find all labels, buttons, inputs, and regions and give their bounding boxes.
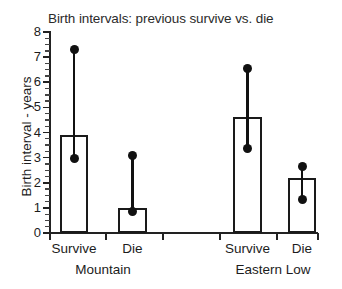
y-minor-tick — [45, 138, 50, 139]
y-minor-tick — [45, 63, 50, 64]
error-bar-line — [246, 68, 249, 148]
y-tick-5 — [43, 107, 50, 109]
error-bar-lower-dot — [298, 195, 307, 204]
y-minor-tick — [45, 188, 50, 189]
y-tick-1 — [43, 207, 50, 209]
y-minor-tick — [45, 163, 50, 164]
error-bar-line — [131, 155, 134, 212]
error-bar-lower-dot — [70, 154, 79, 163]
chart-title: Birth intervals: previous survive vs. di… — [48, 11, 328, 27]
y-minor-tick — [45, 226, 50, 227]
y-tick-2 — [43, 182, 50, 184]
y-minor-tick — [45, 170, 50, 171]
x-tick — [49, 233, 51, 240]
y-tick-label-5: 5 — [11, 100, 41, 113]
y-minor-tick — [45, 119, 50, 120]
y-minor-tick — [45, 44, 50, 45]
y-minor-tick — [45, 214, 50, 215]
y-tick-6 — [43, 81, 50, 83]
chart-container: Birth intervals: previous survive vs. di… — [0, 0, 342, 289]
y-tick-label-2: 2 — [11, 176, 41, 189]
y-tick-8 — [43, 31, 50, 33]
y-minor-tick — [45, 126, 50, 127]
y-tick-label-4: 4 — [11, 126, 41, 139]
error-bar-upper-dot — [70, 45, 79, 54]
y-minor-tick — [45, 144, 50, 145]
y-tick-label-0: 0 — [11, 226, 41, 239]
error-bar-line — [73, 50, 76, 159]
y-tick-label-3: 3 — [11, 151, 41, 164]
y-minor-tick — [45, 151, 50, 152]
y-minor-tick — [45, 201, 50, 202]
y-minor-tick — [45, 220, 50, 221]
error-bar-upper-dot — [128, 151, 137, 160]
error-bar-upper-dot — [243, 64, 252, 73]
x-tick — [219, 233, 221, 240]
y-tick-3 — [43, 157, 50, 159]
error-bar-upper-dot — [298, 162, 307, 171]
y-tick-label-1: 1 — [11, 201, 41, 214]
group-label: Mountain — [33, 262, 173, 278]
y-tick-7 — [43, 56, 50, 58]
x-tick — [162, 233, 164, 240]
y-tick-4 — [43, 132, 50, 134]
y-minor-tick — [45, 94, 50, 95]
y-minor-tick — [45, 50, 50, 51]
group-label: Eastern Low — [203, 262, 342, 278]
x-category-label: Die — [257, 241, 342, 257]
x-tick — [276, 233, 278, 240]
y-tick-label-8: 8 — [11, 25, 41, 38]
y-minor-tick — [45, 88, 50, 89]
y-minor-tick — [45, 38, 50, 39]
y-minor-tick — [45, 75, 50, 76]
y-minor-tick — [45, 113, 50, 114]
x-category-label: Die — [88, 241, 178, 257]
y-tick-label-7: 7 — [11, 50, 41, 63]
y-minor-tick — [45, 69, 50, 70]
y-minor-tick — [45, 100, 50, 101]
x-axis-line — [49, 232, 318, 234]
x-tick — [317, 233, 319, 240]
y-minor-tick — [45, 176, 50, 177]
y-tick-label-6: 6 — [11, 75, 41, 88]
x-tick — [105, 233, 107, 240]
y-minor-tick — [45, 195, 50, 196]
